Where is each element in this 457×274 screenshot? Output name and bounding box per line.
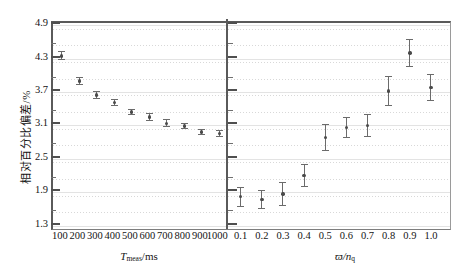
errorbar-cap-bottom	[198, 134, 205, 135]
x-tick-label: 0.9	[403, 231, 416, 242]
axis-tick-minor	[51, 77, 56, 78]
gridline-major	[228, 92, 450, 93]
errorbar-cap-bottom	[93, 98, 100, 99]
axis-tick-major	[228, 56, 237, 58]
errorbar-cap-bottom	[128, 114, 135, 115]
data-point-errorbar	[213, 130, 225, 137]
gridline-minor	[53, 45, 228, 46]
x-tick-label: 300	[87, 231, 103, 242]
gridline-minor	[228, 145, 450, 146]
data-point-errorbar	[362, 114, 374, 137]
gridline-minor	[53, 62, 228, 63]
data-point-errorbar	[178, 123, 190, 130]
y-tick-label: 3.7	[35, 85, 48, 96]
gridline-minor	[53, 29, 228, 30]
errorbar-cap-top	[364, 114, 371, 115]
data-point-errorbar	[404, 39, 416, 67]
gridline-minor	[228, 162, 450, 163]
x-tick-label: 700	[157, 231, 173, 242]
axis-tick-minor	[51, 110, 56, 111]
data-point-marker	[260, 198, 263, 201]
data-point-errorbar	[73, 77, 85, 85]
x-tick-label: 0.5	[319, 231, 332, 242]
plot-panel-left	[51, 21, 228, 230]
gridline-minor	[228, 112, 450, 113]
errorbar-cap-bottom	[163, 126, 170, 127]
x-tick-label: 0.4	[298, 231, 311, 242]
errorbar-cap-bottom	[216, 136, 223, 137]
gridline-major	[53, 192, 228, 193]
data-point-errorbar	[126, 109, 138, 116]
errorbar-cap-top	[406, 39, 413, 40]
axis-tick-major	[228, 89, 237, 91]
data-point-errorbar	[425, 74, 437, 102]
gridline-minor	[53, 212, 228, 213]
gridline-major	[53, 125, 228, 126]
x-tick-label: 600	[139, 231, 155, 242]
errorbar-cap-bottom	[322, 150, 329, 151]
x-tick-label: 0.8	[382, 231, 395, 242]
gridline-minor	[228, 79, 450, 80]
errorbar-cap-top	[427, 74, 434, 75]
data-point-marker	[345, 126, 348, 129]
axis-tick-major	[51, 156, 60, 158]
gridline-minor	[228, 62, 450, 63]
gridline-major	[228, 226, 450, 227]
x-axis-title-right-symbol: ϖ	[335, 250, 343, 262]
x-tick-label: 0.6	[340, 231, 353, 242]
data-point-errorbar	[383, 76, 395, 106]
axis-tick-minor	[51, 43, 56, 44]
data-point-marker	[324, 136, 327, 139]
errorbar-cap-top	[279, 182, 286, 183]
errorbar-cap-bottom	[58, 59, 65, 60]
y-tick-label: 1.9	[35, 185, 48, 196]
axis-tick-minor	[228, 43, 233, 44]
gridline-minor	[228, 179, 450, 180]
axis-tick-major	[228, 223, 237, 225]
data-point-marker	[281, 192, 284, 195]
errorbar-cap-bottom	[364, 136, 371, 137]
errorbar-cap-top	[93, 91, 100, 92]
x-axis-title-right: ϖ/nq	[335, 250, 355, 263]
axis-tick-major	[51, 89, 60, 91]
x-tick-label: 100	[52, 231, 68, 242]
errorbar-cap-bottom	[111, 105, 118, 106]
x-axis-title-left: Tmeas/ms	[120, 250, 157, 263]
axis-tick-major	[51, 122, 60, 124]
y-axis-tick-labels: 4.94.33.73.12.51.91.3	[22, 0, 48, 274]
gridline-minor	[53, 162, 228, 163]
gridline-minor	[53, 95, 228, 96]
gridline-major	[53, 25, 228, 26]
errorbar-cap-bottom	[76, 84, 83, 85]
axis-tick-major	[51, 56, 60, 58]
errorbar-cap-top	[146, 113, 153, 114]
gridline-minor	[53, 179, 228, 180]
data-point-errorbar	[256, 190, 268, 209]
gridline-minor	[228, 95, 450, 96]
figure-root: 相对百分比偏差/% 4.94.33.73.12.51.91.3 10020030…	[0, 0, 457, 274]
x-axis-title-left-subscript: meas	[126, 254, 141, 263]
gridline-major	[53, 159, 228, 160]
x-tick-label: 0.2	[255, 231, 268, 242]
y-tick-label: 4.3	[35, 51, 48, 62]
errorbar-cap-bottom	[237, 206, 244, 207]
data-point-marker	[183, 124, 186, 127]
x-tick-label: 900	[192, 231, 208, 242]
gridline-minor	[228, 212, 450, 213]
x-tick-label: 0.7	[361, 231, 374, 242]
errorbar-cap-bottom	[146, 120, 153, 121]
data-point-errorbar	[277, 182, 289, 205]
data-point-marker	[165, 122, 168, 125]
data-point-marker	[387, 89, 390, 92]
data-point-errorbar	[298, 164, 310, 186]
errorbar-cap-bottom	[406, 66, 413, 67]
data-point-marker	[148, 115, 151, 118]
errorbar-cap-bottom	[385, 105, 392, 106]
data-point-marker	[408, 51, 411, 54]
gridline-minor	[53, 112, 228, 113]
gridline-minor	[53, 145, 228, 146]
axis-tick-minor	[228, 210, 233, 211]
x-tick-label: 400	[104, 231, 120, 242]
data-point-marker	[60, 54, 63, 57]
errorbar-cap-bottom	[279, 205, 286, 206]
